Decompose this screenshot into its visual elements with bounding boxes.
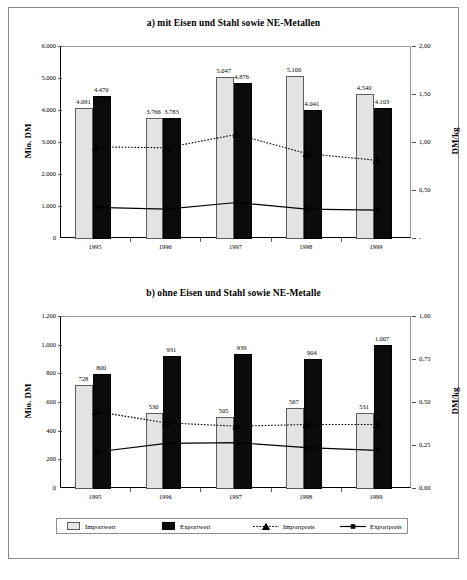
bar-value-label: 728 [67, 375, 99, 382]
x-tick-mark [200, 488, 201, 492]
bar-value-label: 530 [138, 403, 170, 410]
marker-square-exportpreis [304, 445, 309, 450]
line-importpreis [96, 134, 377, 160]
y2-tick-mark [412, 316, 416, 317]
y2-tick-label: - [419, 234, 421, 241]
y-tick-mark [58, 110, 62, 111]
marker-square-exportpreis [164, 441, 169, 446]
bar-value-label: 939 [226, 344, 258, 351]
bar-value-label: 4.041 [296, 100, 328, 107]
y2-tick-label: 0,75 [419, 355, 430, 362]
legend-item-exportpreis[interactable]: Exportpreis [340, 522, 402, 531]
bar-value-label: 3.783 [155, 108, 187, 115]
x-tick-label: 1998 [271, 243, 341, 250]
marker-square-exportpreis [234, 200, 239, 205]
x-tick-label: 1999 [341, 243, 411, 250]
x-tick-label: 1998 [271, 493, 341, 500]
bar-value-label: 904 [296, 349, 328, 356]
legend-item-label: Importpreis [283, 523, 315, 530]
legend-item-label: Exportpreis [370, 523, 402, 530]
bar-value-label: 567 [278, 398, 310, 405]
import-swatch-icon [67, 522, 80, 530]
bar-value-label: 4.470 [85, 86, 117, 93]
y-tick-mark [58, 431, 62, 432]
chart-b: b) ohne Eisen und Stahl sowie NE-Metalle… [8, 288, 459, 548]
legend-item-exportwert[interactable]: Exportwert [162, 522, 211, 530]
y2-tick-label: 2,00 [419, 42, 430, 49]
y-tick-mark [58, 206, 62, 207]
y2-tick-mark [412, 445, 416, 446]
y-tick-label: 3.000 [26, 138, 56, 145]
legend-item-importpreis[interactable]: Importpreis [253, 522, 315, 531]
marker-square-exportpreis [375, 208, 380, 213]
y2-tick-mark [412, 46, 416, 47]
bar-value-label: 800 [85, 364, 117, 371]
legend-item-label: Importwert [85, 523, 116, 530]
chart-b-y2-axis-title: DM/kg [450, 379, 460, 423]
y-tick-label: 1.200 [26, 312, 56, 319]
y-tick-mark [58, 46, 62, 47]
x-tick-label: 1999 [341, 493, 411, 500]
bar-value-label: 4.091 [67, 98, 99, 105]
marker-square-exportpreis [375, 448, 380, 453]
page-caption-cropped [10, 570, 460, 580]
y-tick-label: 2.000 [26, 170, 56, 177]
y-tick-label: 1.000 [26, 341, 56, 348]
marker-triangle-importpreis [92, 143, 100, 150]
legend-item-importwert[interactable]: Importwert [67, 522, 116, 530]
y2-tick-label: 1,50 [419, 90, 430, 97]
solid-line-square-icon [340, 522, 366, 531]
bar-value-label: 5.100 [278, 66, 310, 73]
figure-page: a) mit Eisen und Stahl sowie NE-Metallen… [0, 0, 467, 580]
y2-tick-label: 0,50 [419, 186, 430, 193]
bar-value-label: 4.103 [366, 98, 398, 105]
x-tick-label: 1996 [130, 493, 200, 500]
marker-square-exportpreis [94, 205, 99, 210]
y2-tick-label: 0,25 [419, 441, 430, 448]
y2-tick-mark [412, 402, 416, 403]
y-tick-label: 0 [26, 484, 56, 491]
y-tick-label: 0 [26, 234, 56, 241]
marker-square-exportpreis [234, 440, 239, 445]
marker-triangle-importpreis [92, 408, 100, 415]
marker-square-exportpreis [304, 207, 309, 212]
y-tick-label: 5.000 [26, 74, 56, 81]
bar-value-label: 531 [348, 403, 380, 410]
y-tick-mark [58, 174, 62, 175]
legend-item-label: Exportwert [180, 523, 211, 530]
x-tick-label: 1997 [200, 493, 270, 500]
y-tick-label: 400 [26, 427, 56, 434]
x-tick-mark [130, 238, 131, 242]
y-tick-label: 200 [26, 455, 56, 462]
y2-tick-mark [412, 142, 416, 143]
x-tick-mark [130, 488, 131, 492]
y-tick-label: 800 [26, 369, 56, 376]
chart-a: a) mit Eisen und Stahl sowie NE-Metallen… [8, 18, 459, 278]
y2-tick-mark [412, 488, 416, 489]
y-tick-label: 600 [26, 398, 56, 405]
dotted-line-triangle-icon [253, 522, 279, 531]
export-swatch-icon [162, 522, 175, 530]
chart-legend: ImportwertExportwertImportpreisExportpre… [56, 518, 408, 534]
y2-tick-mark [412, 190, 416, 191]
y-tick-mark [58, 373, 62, 374]
x-tick-mark [271, 238, 272, 242]
y-tick-mark [58, 316, 62, 317]
y-tick-mark [58, 402, 62, 403]
bar-value-label: 1.007 [366, 335, 398, 342]
marker-square-exportpreis [164, 207, 169, 212]
y2-tick-mark [412, 359, 416, 360]
marker-triangle-importpreis [232, 131, 240, 138]
bar-value-label: 931 [155, 346, 187, 353]
y2-tick-mark [412, 238, 416, 239]
y2-tick-label: 0,50 [419, 398, 430, 405]
x-tick-mark [271, 488, 272, 492]
y-tick-mark [58, 459, 62, 460]
bar-value-label: 4.876 [226, 73, 258, 80]
y-tick-label: 6.000 [26, 42, 56, 49]
x-tick-mark [341, 238, 342, 242]
marker-square-exportpreis [94, 450, 99, 455]
y-tick-mark [58, 142, 62, 143]
y2-tick-label: 1,00 [419, 312, 430, 319]
x-tick-label: 1995 [60, 493, 130, 500]
